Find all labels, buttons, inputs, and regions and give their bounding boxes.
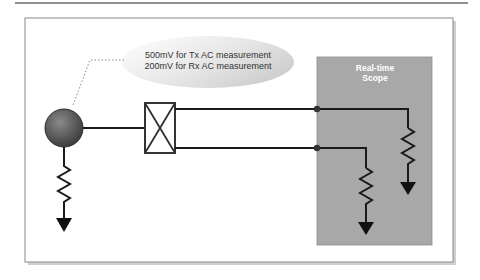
signal-source-icon (45, 109, 83, 147)
channel-1-node (314, 106, 320, 112)
scope-title-line1: Real-time (356, 63, 395, 73)
splitter-box-icon (145, 103, 175, 153)
callout-line-tx: 500mV for Tx AC measurement (145, 50, 271, 60)
channel-2-node (314, 145, 320, 151)
callout-line-rx: 200mV for Rx AC measurement (144, 61, 272, 71)
test-setup-diagram: Real-time Scope 500mV for Tx AC measurem… (0, 0, 480, 280)
realtime-scope-box (317, 57, 432, 245)
scope-title-line2: Scope (362, 73, 388, 83)
